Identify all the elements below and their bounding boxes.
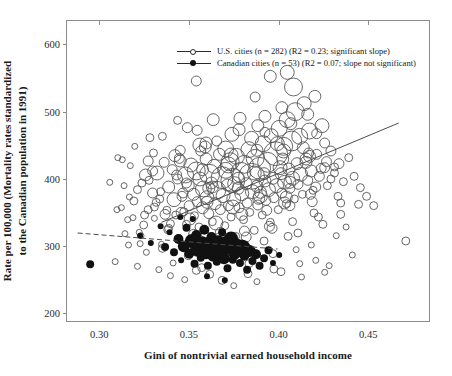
y-axis-tick-label: 600 (10, 39, 67, 50)
mortality-gini-scatter-figure: Rate per 100,000 (Mortality rates standa… (0, 0, 452, 376)
y-axis-tick-label: 400 (10, 173, 67, 184)
y-axis-tick-label: 200 (10, 307, 67, 318)
y-axis-tick-mark (63, 246, 67, 247)
x-axis-tick-label: 0.35 (180, 321, 198, 340)
plot-frame: U.S. cities (n = 282) (R2 = 0.23; signif… (66, 20, 430, 322)
legend-item-us-cities: U.S. cities (n = 282) (R2 = 0.23; signif… (177, 46, 416, 58)
y-axis-tick-label: 300 (10, 240, 67, 251)
y-axis-tick-label: 500 (10, 106, 67, 117)
legend: U.S. cities (n = 282) (R2 = 0.23; signif… (177, 46, 416, 69)
x-axis-tick-label: 0.30 (90, 321, 108, 340)
x-axis-tick-mark (189, 21, 190, 25)
x-axis-tick-label: 0.40 (269, 321, 287, 340)
open-circle-line-icon (177, 46, 211, 57)
legend-item-canadian-cities: Canadian cities (n = 53) (R2 = 0.07; slo… (177, 58, 416, 70)
filled-circle-line-icon (177, 58, 211, 69)
x-axis-title: Gini of nontrivial earned household inco… (66, 349, 430, 361)
regression-line-canadian (78, 233, 278, 249)
x-axis-tick-mark (368, 21, 369, 25)
y-axis-title-wrapper: Rate per 100,000 (Mortality rates standa… (0, 20, 30, 322)
x-axis-tick-mark (279, 21, 280, 25)
regression-line-us (162, 123, 399, 222)
x-axis-tick-label: 0.45 (359, 321, 377, 340)
y-axis-tick-mark (63, 112, 67, 113)
x-axis-tick-mark (99, 21, 100, 25)
y-axis-tick-mark (63, 44, 67, 45)
legend-label-us-cities: U.S. cities (n = 282) (R2 = 0.23; signif… (217, 46, 390, 58)
y-axis-tick-mark (63, 313, 67, 314)
legend-label-canadian-cities: Canadian cities (n = 53) (R2 = 0.07; slo… (217, 58, 416, 70)
y-axis-tick-mark (63, 179, 67, 180)
